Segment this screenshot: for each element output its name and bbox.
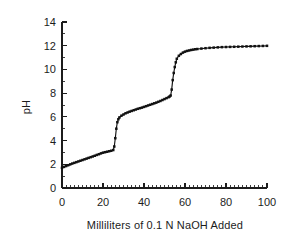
y-tick-label: 0 bbox=[50, 182, 56, 194]
data-point-marker bbox=[171, 79, 174, 82]
chart-figure: 02468101214 020406080100 pH Milliliters … bbox=[0, 0, 295, 243]
data-point-marker bbox=[112, 149, 115, 152]
data-point-marker bbox=[170, 88, 173, 91]
data-point-marker bbox=[116, 121, 119, 124]
data-point-marker bbox=[204, 47, 207, 50]
data-point-marker bbox=[249, 45, 252, 48]
series-line-titration-curve bbox=[62, 46, 267, 168]
y-tick-label: 14 bbox=[44, 16, 56, 28]
data-point-marker bbox=[241, 45, 244, 48]
series-markers-titration-curve bbox=[61, 45, 269, 170]
x-tick-label: 100 bbox=[258, 196, 276, 208]
data-point-marker bbox=[176, 58, 179, 61]
data-point-marker bbox=[237, 45, 240, 48]
data-point-marker bbox=[113, 145, 116, 148]
data-point-marker bbox=[258, 45, 261, 48]
y-axis-tick-labels: 02468101214 bbox=[44, 16, 56, 194]
x-tick-label: 60 bbox=[179, 196, 191, 208]
data-point-marker bbox=[175, 61, 178, 64]
data-point-marker bbox=[212, 46, 215, 49]
y-axis-title: pH bbox=[20, 100, 32, 114]
data-point-marker bbox=[196, 48, 199, 51]
data-point-marker bbox=[217, 46, 220, 49]
data-point-marker bbox=[229, 46, 232, 49]
x-tick-label: 80 bbox=[220, 196, 232, 208]
data-point-marker bbox=[266, 45, 269, 48]
data-point-marker bbox=[225, 46, 228, 49]
y-tick-label: 2 bbox=[50, 158, 56, 170]
data-point-marker bbox=[174, 66, 177, 69]
data-point-marker bbox=[115, 127, 118, 129]
data-point-marker bbox=[233, 46, 236, 49]
data-point-marker bbox=[200, 47, 203, 50]
y-tick-label: 4 bbox=[50, 135, 56, 147]
x-tick-label: 40 bbox=[138, 196, 150, 208]
data-point-marker bbox=[114, 137, 117, 140]
y-tick-label: 12 bbox=[44, 40, 56, 52]
data-point-marker bbox=[169, 94, 172, 97]
titration-curve-chart: 02468101214 020406080100 pH Milliliters … bbox=[0, 0, 295, 243]
x-axis-tick-labels: 020406080100 bbox=[59, 196, 276, 208]
y-tick-label: 6 bbox=[50, 111, 56, 123]
x-axis-title: Milliliters of 0.1 N NaOH Added bbox=[87, 219, 243, 231]
data-point-marker bbox=[172, 72, 175, 75]
x-tick-label: 20 bbox=[97, 196, 109, 208]
x-tick-label: 0 bbox=[59, 196, 65, 208]
data-point-marker bbox=[245, 45, 248, 48]
data-point-marker bbox=[208, 47, 211, 50]
y-tick-label: 10 bbox=[44, 63, 56, 75]
data-point-marker bbox=[262, 45, 265, 48]
data-point-marker bbox=[253, 45, 256, 48]
y-tick-label: 8 bbox=[50, 87, 56, 99]
data-point-marker bbox=[221, 46, 224, 49]
